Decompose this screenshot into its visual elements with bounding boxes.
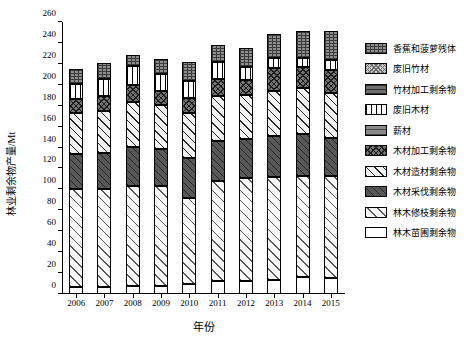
bar-segment[interactable] — [324, 138, 338, 176]
bar-segment[interactable] — [154, 149, 168, 186]
bar-segment[interactable] — [154, 186, 168, 286]
bar-segment[interactable] — [97, 153, 111, 189]
bar-segment[interactable] — [69, 154, 83, 189]
bar-stack[interactable] — [154, 22, 168, 294]
bar-stack[interactable] — [97, 22, 111, 294]
bar-stack[interactable] — [126, 22, 140, 294]
bar-segment[interactable] — [69, 69, 83, 85]
legend-item-label: 废旧木材 — [393, 103, 429, 116]
bar-segment[interactable] — [296, 58, 310, 67]
legend-item[interactable]: 薪材 — [365, 120, 473, 141]
bar-segment[interactable] — [239, 178, 253, 281]
bar-segment[interactable] — [239, 139, 253, 179]
bar-segment[interactable] — [296, 176, 310, 277]
bar-segment[interactable] — [154, 105, 168, 149]
bar-segment[interactable] — [154, 74, 168, 91]
bar-segment[interactable] — [69, 99, 83, 112]
legend-item[interactable]: 林木苗圃剩余物 — [365, 223, 473, 244]
bar-segment[interactable] — [267, 136, 281, 177]
bar-segment[interactable] — [211, 96, 225, 141]
bar-segment[interactable] — [239, 48, 253, 67]
bar-segment[interactable] — [211, 281, 225, 294]
bar-segment[interactable] — [126, 55, 140, 66]
y-tick-mark — [58, 272, 62, 273]
bar-segment[interactable] — [97, 96, 111, 111]
bar-segment[interactable] — [69, 113, 83, 154]
bar-segment[interactable] — [211, 79, 225, 96]
bar-segment[interactable] — [267, 68, 281, 91]
bar-segment[interactable] — [296, 134, 310, 176]
bar-segment[interactable] — [239, 67, 253, 80]
bar-segment[interactable] — [182, 198, 196, 284]
y-tick-mark — [58, 84, 62, 85]
bar-segment[interactable] — [182, 98, 196, 113]
bar-segment[interactable] — [182, 62, 196, 81]
bar-segment[interactable] — [69, 84, 83, 99]
bar-segment[interactable] — [126, 286, 140, 294]
bar-segment[interactable] — [97, 189, 111, 287]
legend-item[interactable]: 废旧竹材 — [365, 59, 473, 80]
legend-item[interactable]: 木材造材剩余物 — [365, 161, 473, 182]
bar-segment[interactable] — [97, 287, 111, 294]
bar-segment[interactable] — [296, 67, 310, 88]
bar-stack[interactable] — [69, 22, 83, 294]
bar-stack[interactable] — [239, 22, 253, 294]
legend-item-label: 林木修枝剩余物 — [393, 206, 456, 219]
bar-segment[interactable] — [211, 181, 225, 282]
bar-segment[interactable] — [324, 60, 338, 70]
bar-segment[interactable] — [296, 277, 310, 294]
y-tick-label: 140 — [43, 134, 63, 143]
chart-figure: 林业剩余物产量/Mt 02040608010012014016018020022… — [0, 0, 476, 348]
bar-segment[interactable] — [239, 281, 253, 294]
bar-segment[interactable] — [97, 111, 111, 153]
bar-segment[interactable] — [182, 284, 196, 294]
bar-segment[interactable] — [211, 141, 225, 181]
bar-segment[interactable] — [239, 80, 253, 96]
bar-segment[interactable] — [324, 93, 338, 138]
bar-segment[interactable] — [267, 34, 281, 58]
legend-item[interactable]: 林木修枝剩余物 — [365, 202, 473, 223]
legend-item[interactable]: 木材采伐剩余物 — [365, 182, 473, 203]
bar-segment[interactable] — [324, 70, 338, 93]
bar-segment[interactable] — [211, 62, 225, 79]
bar-stack[interactable] — [182, 22, 196, 294]
bar-segment[interactable] — [324, 278, 338, 294]
bar-stack[interactable] — [324, 22, 338, 294]
bar-segment[interactable] — [154, 91, 168, 105]
bar-segment[interactable] — [126, 102, 140, 146]
bar-segment[interactable] — [126, 147, 140, 187]
legend-swatch-icon — [365, 63, 387, 74]
bar-segment[interactable] — [97, 63, 111, 79]
bar-segment[interactable] — [126, 66, 140, 84]
bar-segment[interactable] — [296, 88, 310, 134]
bar-segment[interactable] — [211, 45, 225, 62]
bar-segment[interactable] — [267, 280, 281, 294]
bar-segment[interactable] — [126, 85, 140, 102]
bar-segment[interactable] — [182, 113, 196, 158]
legend-item[interactable]: 竹材加工剩余物 — [365, 79, 473, 100]
bar-stack[interactable] — [211, 22, 225, 294]
bar-segment[interactable] — [182, 158, 196, 198]
y-tick-label: 180 — [43, 92, 63, 101]
bar-segment[interactable] — [324, 31, 338, 59]
bar-segment[interactable] — [126, 186, 140, 286]
bar-stack[interactable] — [267, 22, 281, 294]
legend-swatch-icon — [365, 186, 387, 197]
bar-stack[interactable] — [296, 22, 310, 294]
bar-segment[interactable] — [182, 81, 196, 98]
legend-item[interactable]: 木材加工剩余物 — [365, 141, 473, 162]
bar-segment[interactable] — [267, 58, 281, 68]
legend-item-label: 废旧竹材 — [393, 62, 429, 75]
legend-item[interactable]: 废旧木材 — [365, 100, 473, 121]
bar-segment[interactable] — [154, 59, 168, 75]
bar-segment[interactable] — [267, 177, 281, 280]
bar-segment[interactable] — [154, 286, 168, 294]
bar-segment[interactable] — [239, 95, 253, 138]
bar-segment[interactable] — [97, 79, 111, 96]
bar-segment[interactable] — [267, 91, 281, 136]
bar-segment[interactable] — [69, 189, 83, 287]
bar-segment[interactable] — [69, 287, 83, 294]
bar-segment[interactable] — [324, 176, 338, 279]
legend-item[interactable]: 香蕉和菠萝残体 — [365, 38, 473, 59]
bar-segment[interactable] — [296, 31, 310, 58]
